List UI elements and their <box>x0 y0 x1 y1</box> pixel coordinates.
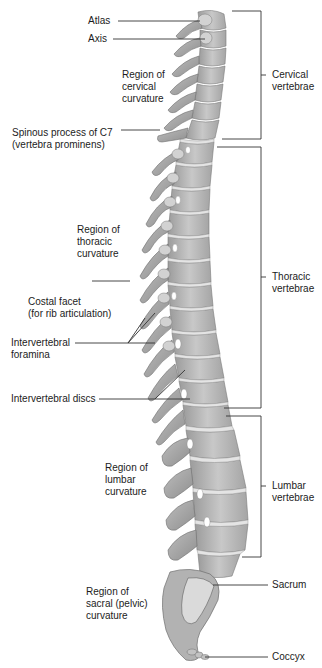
label-atlas: Atlas <box>88 15 110 27</box>
spine-diagram: Atlas Axis Region of cervical curvature … <box>0 0 322 668</box>
label-sacral-curvature: Region of sacral (pelvic) curvature <box>86 586 148 622</box>
label-cervical-vertebrae: Cervical vertebrae <box>272 69 314 93</box>
sacrum <box>162 569 219 660</box>
label-intervertebral-foramina: Intervertebral foramina <box>11 337 70 361</box>
label-coccyx: Coccyx <box>272 651 305 663</box>
label-intervertebral-discs: Intervertebral discs <box>11 393 95 405</box>
label-spinous-process-c7: Spinous process of C7 (vertebra prominen… <box>12 127 113 151</box>
label-thoracic-vertebrae: Thoracic vertebrae <box>272 271 314 295</box>
label-thoracic-curvature: Region of thoracic curvature <box>77 224 120 260</box>
label-lumbar-curvature: Region of lumbar curvature <box>105 462 148 498</box>
label-axis: Axis <box>88 33 107 45</box>
label-costal-facet: Costal facet (for rib articulation) <box>28 296 111 320</box>
label-sacrum: Sacrum <box>272 579 306 591</box>
label-cervical-curvature: Region of cervical curvature <box>122 69 165 105</box>
label-lumbar-vertebrae: Lumbar vertebrae <box>272 480 314 504</box>
